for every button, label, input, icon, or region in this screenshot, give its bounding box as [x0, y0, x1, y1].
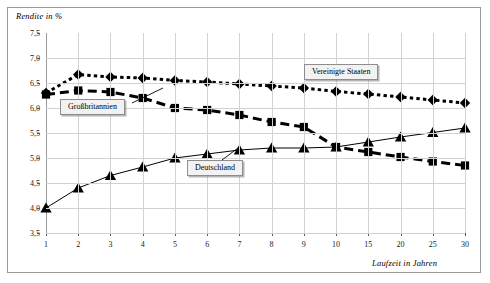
gridline-vertical [78, 33, 79, 233]
gridline-vertical [336, 33, 337, 233]
x-tick-label: 1 [44, 240, 48, 249]
series-label-vereinigte-staaten: Vereinigte Staaten [304, 64, 378, 80]
gridline-vertical [368, 33, 369, 233]
x-tick-label: 10 [332, 240, 340, 249]
y-tick-mark [37, 233, 40, 234]
x-tick-label: 3 [108, 240, 112, 249]
x-tick-label: 7 [237, 240, 241, 249]
y-tick-mark [37, 158, 40, 159]
y-tick-mark [37, 208, 40, 209]
y-tick-mark [37, 133, 40, 134]
series-deutschland [40, 123, 470, 213]
gridline-horizontal [46, 133, 465, 134]
y-tick-mark [37, 108, 40, 109]
y-tick-mark [37, 183, 40, 184]
x-tick-label: 30 [461, 240, 469, 249]
y-tick-mark [37, 83, 40, 84]
gridline-vertical [110, 33, 111, 233]
gridline-vertical [207, 33, 208, 233]
gridline-horizontal [46, 183, 465, 184]
gridline-vertical [465, 33, 466, 233]
y-tick-mark [37, 58, 40, 59]
gridline-horizontal [46, 58, 465, 59]
plot-area [46, 33, 465, 233]
x-tick-label: 2 [76, 240, 80, 249]
gridline-vertical [239, 33, 240, 233]
y-axis-tick-labels: 7,57,06,56,05,55,04,54,03,5 [10, 33, 40, 233]
data-point-marker [42, 90, 50, 98]
y-tick-mark [37, 33, 40, 34]
x-tick-label: 15 [364, 240, 372, 249]
gridline-horizontal [46, 233, 465, 234]
gridline-vertical [143, 33, 144, 233]
gridline-vertical [401, 33, 402, 233]
x-tick-label: 9 [302, 240, 306, 249]
y-axis-title: Rendite in % [16, 11, 62, 21]
x-tick-label: 5 [173, 240, 177, 249]
x-axis-tick-labels: 1234567891015202530 [46, 240, 465, 254]
gridline-vertical [433, 33, 434, 233]
gridline-vertical [272, 33, 273, 233]
gridline-vertical [304, 33, 305, 233]
series-label-gro-britannien: Großbritannien [60, 99, 125, 115]
x-axis-title: Laufzeit in Jahren [372, 258, 437, 268]
x-tick-label: 8 [270, 240, 274, 249]
chart-canvas: Rendite in % Laufzeit in Jahren 7,57,06,… [0, 0, 490, 283]
x-tick-label: 20 [397, 240, 405, 249]
x-tick-label: 4 [141, 240, 145, 249]
x-tick-mark [465, 233, 466, 236]
series-label-deutschland: Deutschland [187, 160, 243, 176]
gridline-horizontal [46, 208, 465, 209]
gridline-horizontal [46, 83, 465, 84]
x-tick-label: 6 [205, 240, 209, 249]
gridline-horizontal [46, 158, 465, 159]
gridline-vertical [175, 33, 176, 233]
x-tick-label: 25 [429, 240, 437, 249]
